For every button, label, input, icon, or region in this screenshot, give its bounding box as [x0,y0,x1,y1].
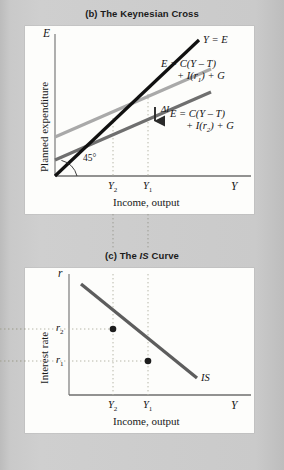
label-line-2-tail: ) + G [201,70,224,81]
point-r1-y1 [145,358,152,365]
tick-sub: 1 [60,360,64,368]
panel-c-xtick-y1: Y1 [143,399,152,413]
expenditure-high-investment-label: E = C(Y – T) + I(r1) + G [161,58,225,85]
panel-c-x-axis-label: Income, output [113,415,180,427]
panel-c-ytick-r2: r2 [56,322,64,336]
tick-sub: 2 [114,186,118,194]
panel-b-title: (b) The Keynesian Cross [0,8,284,19]
panel-c-x-axis-variable: Y [231,399,237,411]
tick-sub: 2 [114,405,118,413]
is-curve-plot [25,268,254,433]
panel-c-title-main: Curve [149,250,179,261]
panel-c-title: (c) The IS Curve [0,250,284,261]
label-line-2: + I(r2) + G [170,120,234,134]
label-line-1: E = C(Y – T) [161,58,216,69]
panel-b-x-axis-label: Income, output [113,196,180,208]
tick-sub: 1 [149,405,153,413]
panel-b-xtick-y2: Y2 [108,180,117,194]
is-curve-line [81,284,197,378]
forty-five-degree-label: 45° [83,153,96,163]
panel-b-xtick-y1: Y1 [143,180,152,194]
panel-c-title-prefix: (c) The [105,250,140,261]
is-curve-panel: r Interest rate r2 r1 IS Y2 Y1 Y Income,… [25,268,254,433]
panel-b-title-text: (b) The Keynesian Cross [85,8,199,19]
left-gutter-gridline-stubs [0,268,26,433]
delta-i-label: ΔI [161,104,169,114]
forty-five-degree-curve-label: Y = E [203,34,228,46]
label-line-1: E = C(Y – T) [170,108,225,119]
panel-c-ytick-r1: r1 [56,354,64,368]
is-curve-label: IS [201,372,210,384]
keynesian-cross-panel: E Planned expenditure 45° Y = E E = C(Y … [25,26,254,214]
tick-sub: 2 [60,328,64,336]
panel-b-x-axis-variable: Y [231,180,237,192]
label-line-2: + I(r1) + G [161,70,225,84]
point-r2-y2 [110,326,117,333]
panel-c-y-axis-variable: r [58,267,62,279]
expenditure-low-investment-label: E = C(Y – T) + I(r2) + G [170,108,234,135]
inter-panel-connectors [0,214,284,250]
label-line-2-head: + I(r [177,70,198,81]
label-line-2-tail: ) + G [210,120,233,131]
panel-c-title-italic: IS [140,250,149,261]
panel-c-y-axis-label: Interest rate [38,332,50,384]
panel-c-xtick-y2: Y2 [108,399,117,413]
tick-sub: 1 [149,186,153,194]
label-line-2-head: + I(r [186,120,207,131]
panel-b-y-axis-label: Planned expenditure [38,82,50,172]
panel-b-y-axis-variable: E [43,27,50,39]
